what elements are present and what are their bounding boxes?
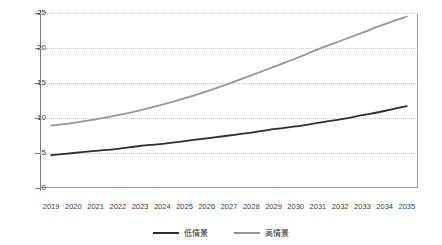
- legend-label: 高情景: [265, 229, 289, 238]
- x-axis-tick-label: 2027: [217, 203, 241, 211]
- x-axis-tick-label: 2020: [61, 203, 85, 211]
- legend-line-swatch-icon: [234, 232, 260, 234]
- gridline: [40, 48, 418, 49]
- x-axis-tick-label: 2031: [306, 203, 330, 211]
- x-axis-tick-label: 2028: [239, 203, 263, 211]
- x-axis-tick-label: 2026: [195, 203, 219, 211]
- x-axis-tick-label: 2035: [395, 203, 419, 211]
- gridline: [40, 83, 418, 84]
- x-axis-tick-label: 2032: [328, 203, 352, 211]
- gridline: [40, 13, 418, 14]
- legend-label: 低情景: [184, 229, 208, 238]
- plot-area: [40, 13, 418, 188]
- legend-item-high-scenario[interactable]: 高情景: [234, 229, 289, 238]
- chart-legend: 低情景高情景: [0, 226, 442, 240]
- gridline: [40, 118, 418, 119]
- y-axis-tick-label: 10: [18, 114, 46, 122]
- x-axis-tick-label: 2034: [373, 203, 397, 211]
- x-axis-tick-label: 2029: [261, 203, 285, 211]
- legend-item-low-scenario[interactable]: 低情景: [153, 229, 208, 238]
- x-axis-tick-label: 2025: [173, 203, 197, 211]
- line-chart: 0510152025 20192020202120222023202420252…: [0, 0, 442, 245]
- x-axis-tick-label: 2019: [39, 203, 63, 211]
- x-axis-tick-label: 2023: [128, 203, 152, 211]
- y-axis-tick-label: 15: [18, 79, 46, 87]
- y-axis-tick-label: 5: [18, 149, 46, 157]
- y-axis-tick-label: 25: [18, 9, 46, 17]
- x-axis-tick-label: 2022: [106, 203, 130, 211]
- legend-line-swatch-icon: [153, 232, 179, 234]
- y-axis-tick-label: 0: [18, 184, 46, 192]
- gridline: [40, 153, 418, 154]
- x-axis-tick-label: 2021: [84, 203, 108, 211]
- x-axis-tick-label: 2024: [150, 203, 174, 211]
- x-axis-tick-label: 2033: [350, 203, 374, 211]
- x-axis-tick-label: 2030: [284, 203, 308, 211]
- y-axis-tick-label: 20: [18, 44, 46, 52]
